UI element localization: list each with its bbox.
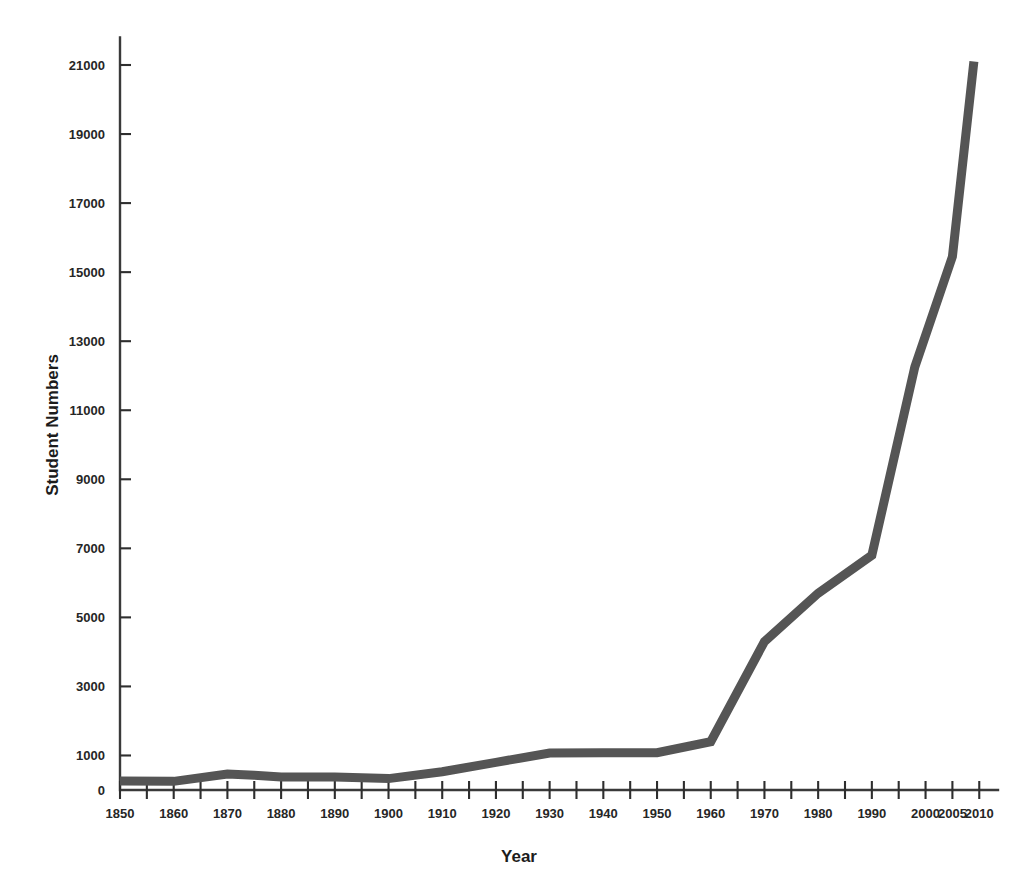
x-tick-label: 1880 [267, 806, 296, 821]
data-line-student-numbers [120, 62, 974, 782]
x-tick-label: 1970 [750, 806, 779, 821]
x-tick-label: 2005 [938, 806, 967, 821]
y-tick-label: 9000 [76, 472, 105, 487]
y-tick-label: 1000 [76, 748, 105, 763]
x-tick-label: 1990 [857, 806, 886, 821]
axis-lines [120, 37, 998, 790]
data-series-group [120, 62, 974, 782]
y-axis-title: Student Numbers [43, 354, 62, 496]
x-axis-ticks: 1850186018701880189019001910192019301940… [106, 781, 994, 821]
x-tick-label: 1940 [589, 806, 618, 821]
y-tick-label: 13000 [69, 334, 105, 349]
y-tick-label: 11000 [70, 403, 105, 418]
x-tick-label: 1890 [320, 806, 349, 821]
x-tick-label: 1960 [696, 806, 725, 821]
x-tick-label: 1950 [643, 806, 672, 821]
x-tick-label: 1860 [159, 806, 188, 821]
axes-group [120, 37, 998, 790]
x-tick-label: 1980 [804, 806, 833, 821]
x-tick-label: 1870 [213, 806, 242, 821]
y-tick-label: 0 [98, 783, 105, 798]
y-tick-label: 15000 [69, 265, 105, 280]
x-tick-label: 1920 [481, 806, 510, 821]
x-tick-label: 1910 [428, 806, 457, 821]
y-tick-label: 3000 [76, 679, 105, 694]
x-axis-title: Year [501, 847, 537, 866]
x-tick-label: 1930 [535, 806, 564, 821]
line-chart-svg: 0100030005000700090001100013000150001700… [0, 0, 1015, 882]
y-tick-label: 21000 [69, 58, 105, 73]
y-tick-label: 5000 [76, 610, 105, 625]
y-axis-ticks: 0100030005000700090001100013000150001700… [69, 58, 131, 798]
x-tick-label: 1850 [106, 806, 135, 821]
y-tick-label: 17000 [69, 196, 105, 211]
x-tick-label: 1900 [374, 806, 403, 821]
x-tick-label: 2010 [965, 806, 994, 821]
y-tick-label: 19000 [69, 127, 105, 142]
x-tick-label: 2000 [911, 806, 940, 821]
y-tick-label: 7000 [76, 541, 105, 556]
chart-container: 0100030005000700090001100013000150001700… [0, 0, 1015, 882]
